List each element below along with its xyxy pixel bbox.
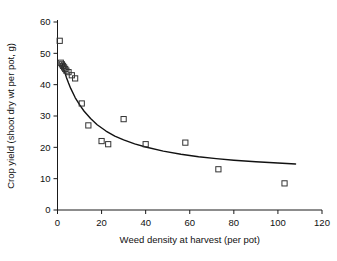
x-tick-label: 80 [229,217,240,228]
y-axis-title: Crop yield (shoot dry wt per pot, g) [5,43,16,189]
y-tick-label: 40 [40,79,51,90]
data-point-marker [282,181,287,186]
y-tick-label: 20 [40,142,51,153]
x-tick-label: 120 [314,217,330,228]
data-point-marker [216,167,221,172]
y-tick-label: 0 [45,204,50,215]
fit-curve [62,63,296,164]
data-point-marker [99,138,104,143]
y-tick-label: 10 [40,173,51,184]
data-point-marker [121,117,126,122]
x-tick-label: 60 [184,217,195,228]
fit-curve-layer [62,63,296,164]
x-axis-title: Weed density at harvest (per pot) [120,234,260,245]
scatter-plot-svg: 0102030405060020406080100120Weed density… [0,0,337,261]
data-point-marker [86,123,91,128]
chart-figure: 0102030405060020406080100120Weed density… [0,0,337,261]
data-point-marker [183,140,188,145]
y-tick-label: 50 [40,48,51,59]
x-tick-label: 20 [96,217,107,228]
x-tick-label: 40 [140,217,151,228]
data-point-marker [69,73,74,78]
data-points-layer [57,38,287,186]
axis-labels-layer: 0102030405060020406080100120Weed density… [5,16,330,245]
y-tick-label: 30 [40,110,51,121]
x-tick-label: 0 [55,217,60,228]
data-point-marker [106,142,111,147]
data-point-marker [73,76,78,81]
y-tick-label: 60 [40,16,51,27]
x-tick-label: 100 [270,217,286,228]
